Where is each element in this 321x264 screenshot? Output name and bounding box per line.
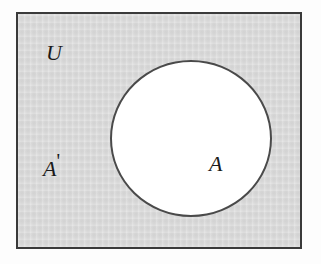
set-a-label: A [209,153,222,175]
complement-letter: A [43,156,56,181]
set-a-circle [110,60,272,217]
complement-set-label: A' [43,151,60,180]
venn-diagram-figure: U A' A [0,0,321,264]
universal-set-label: U [46,42,62,64]
prime-symbol: ' [56,150,60,172]
